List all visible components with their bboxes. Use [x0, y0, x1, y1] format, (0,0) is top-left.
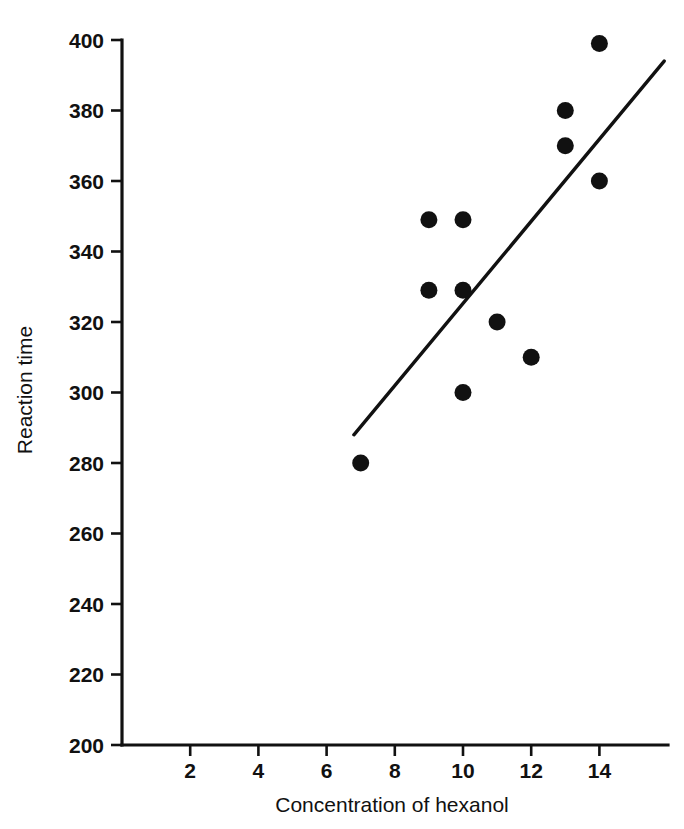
x-tick-label: 14	[588, 759, 612, 782]
x-tick-label: 12	[520, 759, 543, 782]
x-tick-label: 8	[389, 759, 401, 782]
y-axis-ticks: 200220240260280300320340360380400	[69, 29, 122, 757]
y-tick-label: 320	[69, 311, 104, 334]
data-point-marker	[591, 173, 608, 190]
x-tick-label: 6	[321, 759, 333, 782]
data-point-marker	[455, 211, 472, 228]
x-tick-label: 2	[184, 759, 196, 782]
y-tick-label: 200	[69, 734, 104, 757]
x-axis-title: Concentration of hexanol	[275, 793, 509, 816]
y-tick-label: 360	[69, 170, 104, 193]
data-point-marker	[523, 349, 540, 366]
y-axis-title: Reaction time	[13, 326, 36, 454]
y-tick-label: 220	[69, 663, 104, 686]
data-point-marker	[420, 211, 437, 228]
data-point-marker	[420, 282, 437, 299]
data-point-marker	[455, 384, 472, 401]
y-tick-label: 400	[69, 29, 104, 52]
y-tick-label: 300	[69, 381, 104, 404]
y-tick-label: 240	[69, 593, 104, 616]
data-points	[352, 35, 608, 471]
plot-canvas: 200220240260280300320340360380400 246810…	[0, 0, 684, 829]
data-point-marker	[489, 314, 506, 331]
data-point-marker	[557, 102, 574, 119]
data-point-marker	[557, 137, 574, 154]
y-tick-label: 380	[69, 99, 104, 122]
axes	[122, 40, 668, 745]
x-axis-ticks: 2468101214	[184, 745, 611, 782]
x-tick-label: 10	[451, 759, 474, 782]
regression-line	[354, 61, 664, 435]
data-point-marker	[455, 282, 472, 299]
y-tick-label: 260	[69, 522, 104, 545]
y-tick-label: 280	[69, 452, 104, 475]
trend-line	[354, 61, 664, 435]
data-point-marker	[591, 35, 608, 52]
data-point-marker	[352, 455, 369, 472]
x-tick-label: 4	[253, 759, 265, 782]
scatter-plot-figure: 200220240260280300320340360380400 246810…	[0, 0, 684, 829]
y-tick-label: 340	[69, 240, 104, 263]
